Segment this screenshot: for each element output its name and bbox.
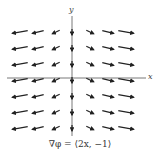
vector-arrow: [32, 111, 43, 114]
vector-arrow: [52, 78, 59, 82]
vector-arrow: [102, 63, 113, 66]
vector-arrow: [12, 63, 27, 66]
vector-arrows: [12, 29, 133, 131]
vector-arrow: [102, 31, 113, 34]
vector-arrow: [102, 47, 113, 50]
vector-arrow: [86, 94, 93, 98]
vector-arrow: [32, 95, 43, 98]
y-axis-label: y: [69, 5, 74, 14]
vector-arrow: [118, 127, 133, 130]
vector-arrow: [12, 95, 27, 98]
vector-arrow: [52, 62, 59, 66]
vector-arrow: [86, 126, 93, 130]
field-caption: ∇φ = ⟨2x, −1⟩: [0, 139, 160, 149]
vector-arrow: [52, 94, 59, 98]
vector-arrow: [86, 110, 93, 114]
vector-arrow: [102, 127, 113, 130]
vector-arrow: [52, 30, 59, 34]
vector-arrow: [118, 47, 133, 50]
vector-arrow: [86, 78, 93, 82]
vector-arrow: [12, 127, 27, 130]
vector-arrow: [12, 31, 27, 34]
vector-arrow: [118, 95, 133, 98]
x-axis-label: x: [148, 72, 153, 81]
vector-arrow: [32, 127, 43, 130]
vector-arrow: [32, 63, 43, 66]
vector-arrow: [118, 79, 133, 82]
vector-arrow: [52, 126, 59, 130]
vector-arrow: [12, 111, 27, 114]
vector-arrow: [86, 46, 93, 50]
vector-arrow: [52, 110, 59, 114]
vector-arrow: [118, 63, 133, 66]
vector-arrow: [12, 79, 27, 82]
vector-arrow: [52, 46, 59, 50]
vector-arrow: [32, 47, 43, 50]
vector-arrow: [102, 95, 113, 98]
vector-arrow: [12, 47, 27, 50]
vector-arrow: [102, 111, 113, 114]
vector-field-plot: [0, 0, 160, 160]
vector-arrow: [86, 62, 93, 66]
vector-arrow: [86, 30, 93, 34]
vector-arrow: [118, 111, 133, 114]
vector-arrow: [118, 31, 133, 34]
vector-arrow: [102, 79, 113, 82]
vector-arrow: [32, 79, 43, 82]
vector-arrow: [32, 31, 43, 34]
